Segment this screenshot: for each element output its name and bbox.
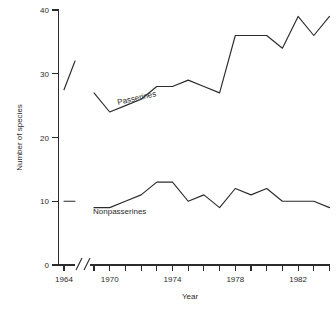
y-tick-label-20: 20 <box>40 134 49 143</box>
y-tick-label-10: 10 <box>40 197 49 206</box>
x-tick-label-1964: 1964 <box>55 275 73 284</box>
x-axis-title: Year <box>182 292 199 301</box>
x-tick-label-1982: 1982 <box>289 275 307 284</box>
line-chart-figure: 40 30 20 10 0 Number of species 1964 197… <box>0 0 336 309</box>
passerines-pre-break-segment <box>64 61 75 90</box>
nonpasserines-series-label: Nonpasserines <box>93 207 146 216</box>
nonpasserines-line <box>94 182 330 208</box>
axis-break-slash-2 <box>84 258 90 270</box>
x-tick-label-1978: 1978 <box>226 275 244 284</box>
passerines-series-label: Passerines <box>116 89 157 107</box>
x-tick-label-1974: 1974 <box>164 275 182 284</box>
y-tick-label-0: 0 <box>45 261 50 270</box>
y-tick-label-40: 40 <box>40 6 49 15</box>
axis-break-slash-1 <box>76 258 82 270</box>
chart-canvas: 40 30 20 10 0 Number of species 1964 197… <box>0 0 336 309</box>
y-tick-label-30: 30 <box>40 70 49 79</box>
x-tick-label-1970: 1970 <box>101 275 119 284</box>
y-axis-title: Number of species <box>15 104 24 171</box>
